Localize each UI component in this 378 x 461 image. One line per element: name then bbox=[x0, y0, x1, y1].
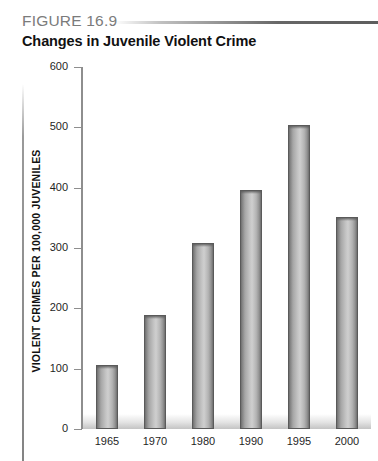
y-axis-tick-label: 300 bbox=[28, 247, 68, 248]
y-axis-tick bbox=[74, 127, 82, 128]
y-axis-tick-label: 500 bbox=[28, 126, 68, 127]
x-axis-label: 2000 bbox=[323, 435, 371, 447]
bar bbox=[240, 190, 262, 429]
x-axis-label: 1965 bbox=[83, 435, 131, 447]
y-axis-tick bbox=[74, 248, 82, 249]
x-axis-label: 1970 bbox=[131, 435, 179, 447]
x-axis-label: 1980 bbox=[179, 435, 227, 447]
y-axis-tick-label: 200 bbox=[28, 307, 68, 308]
y-axis-tick bbox=[74, 188, 82, 189]
y-axis-tick-label: 0 bbox=[28, 428, 68, 429]
bar-slot bbox=[275, 67, 323, 429]
bar-slot bbox=[131, 67, 179, 429]
y-axis-tick bbox=[74, 308, 82, 309]
bar-slot bbox=[179, 67, 227, 429]
x-axis-label: 1990 bbox=[227, 435, 275, 447]
bar-slot bbox=[323, 67, 371, 429]
bar bbox=[192, 243, 214, 429]
bar-slot bbox=[83, 67, 131, 429]
y-axis-tick-label: 400 bbox=[28, 187, 68, 188]
bar bbox=[96, 365, 118, 429]
bar-chart: VIOLENT CRIMES PER 100,000 JUVENILES 010… bbox=[0, 0, 378, 461]
bar bbox=[336, 217, 358, 429]
bar-slot bbox=[227, 67, 275, 429]
bar bbox=[144, 315, 166, 429]
y-axis-title: VIOLENT CRIMES PER 100,000 JUVENILES bbox=[30, 131, 42, 391]
x-axis-label: 1995 bbox=[275, 435, 323, 447]
y-axis-tick-label: 600 bbox=[28, 66, 68, 67]
y-axis-tick bbox=[74, 369, 82, 370]
y-axis-tick-label: 100 bbox=[28, 368, 68, 369]
bars-container bbox=[83, 67, 371, 429]
y-axis-tick bbox=[74, 429, 82, 430]
y-axis-tick bbox=[74, 67, 82, 68]
bar bbox=[288, 125, 310, 429]
